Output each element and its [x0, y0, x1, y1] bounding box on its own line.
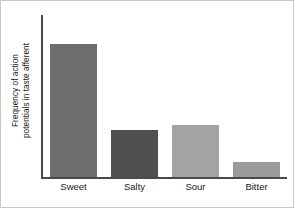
bar-bitter [233, 162, 279, 177]
y-axis-label-line-2: potentials in taste afferent [21, 42, 32, 137]
y-axis-label-line-1: Frequency of action [11, 42, 22, 137]
plot-area [43, 15, 287, 177]
bar-salty [111, 130, 157, 177]
bar-sweet [50, 44, 96, 177]
x-axis-tick-labels: SweetSaltySourBitter [43, 181, 287, 201]
x-tick-label-sour: Sour [165, 181, 226, 192]
y-axis-label: Frequency of action potentials in taste … [1, 1, 41, 179]
x-axis-line [41, 177, 287, 179]
x-tick-label-salty: Salty [104, 181, 165, 192]
bar-sour [172, 125, 218, 177]
x-tick-label-bitter: Bitter [226, 181, 287, 192]
x-tick-label-sweet: Sweet [43, 181, 104, 192]
y-axis-label-text: Frequency of action potentials in taste … [11, 42, 32, 137]
bar-chart-figure: Frequency of action potentials in taste … [0, 0, 294, 208]
